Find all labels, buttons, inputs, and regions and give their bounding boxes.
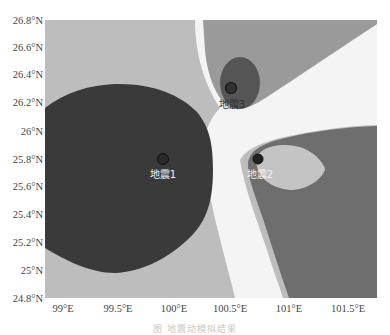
zone-map [45, 20, 377, 298]
y-tick-label: 26.2°N [13, 97, 43, 108]
y-tick-label: 26.4°N [13, 69, 43, 80]
figure-caption: 图 地震动模拟结果 [0, 322, 390, 335]
x-tick-label: 100.5°E [213, 303, 247, 314]
y-tick-label: 26°N [21, 126, 43, 137]
y-tick-label: 25°N [21, 265, 43, 276]
y-tick-label: 26.8°N [13, 15, 43, 26]
seismic-map-plot [45, 20, 377, 298]
quake2-marker [253, 154, 263, 164]
y-tick-label: 25.6°N [13, 181, 43, 192]
y-tick-label: 26.6°N [13, 42, 43, 53]
quake2-label: 地震2 [247, 166, 273, 181]
y-tick-label: 25.4°N [13, 209, 43, 220]
x-tick-label: 99.5°E [104, 303, 133, 314]
quake1-marker [158, 154, 169, 165]
quake3-marker [226, 83, 237, 94]
x-tick-label: 101°E [276, 303, 302, 314]
quake3-label: 地震3 [219, 96, 245, 111]
y-tick-label: 24.8°N [13, 293, 43, 304]
y-tick-label: 25.8°N [13, 154, 43, 165]
x-tick-label: 100°E [161, 303, 187, 314]
x-tick-label: 99°E [52, 303, 73, 314]
y-tick-label: 25.2°N [13, 237, 43, 248]
x-tick-label: 101.5°E [331, 303, 365, 314]
quake1-label: 地震1 [150, 166, 176, 181]
